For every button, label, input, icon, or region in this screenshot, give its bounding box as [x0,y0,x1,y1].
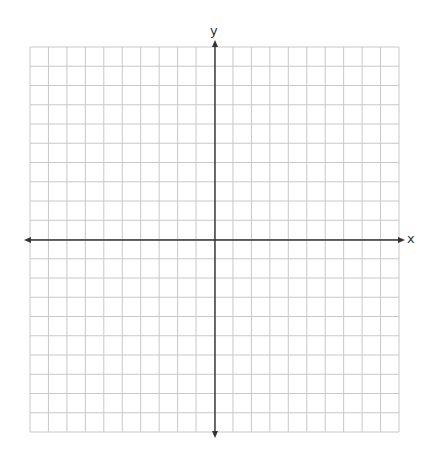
x-axis-label: x [407,232,415,245]
coordinate-plane [0,0,437,461]
background [0,0,437,461]
y-axis-label: y [210,24,218,37]
